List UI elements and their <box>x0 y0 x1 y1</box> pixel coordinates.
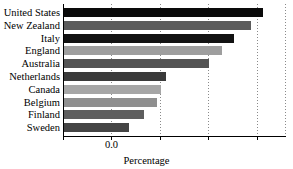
category-label: Belgium <box>0 98 60 108</box>
category-label: England <box>0 46 60 56</box>
plot-area <box>63 4 286 137</box>
bar <box>64 72 166 81</box>
category-label: Australia <box>0 59 60 69</box>
category-label: Sweden <box>0 123 60 133</box>
category-label: United States <box>0 8 60 18</box>
x-axis-zero-tick-label: 0.0 <box>81 139 141 150</box>
bar <box>64 34 234 43</box>
bar <box>64 8 263 17</box>
category-label: Italy <box>0 34 60 44</box>
bar-chart-figure: United StatesNew ZealandItalyEnglandAust… <box>0 0 293 169</box>
bar <box>64 85 161 94</box>
x-axis-tick <box>257 136 258 140</box>
bar <box>64 123 129 132</box>
gridline <box>257 4 258 136</box>
bar <box>64 59 209 68</box>
category-label: Canada <box>0 85 60 95</box>
bar <box>64 21 251 30</box>
category-axis-labels: United StatesNew ZealandItalyEnglandAust… <box>0 6 62 132</box>
bar <box>64 98 157 107</box>
x-axis-title: Percentage <box>0 155 293 166</box>
bar <box>64 46 222 55</box>
category-label: Netherlands <box>0 72 60 82</box>
x-axis-tick <box>160 136 161 140</box>
x-axis-tick <box>208 136 209 140</box>
x-axis-tick <box>63 136 64 140</box>
category-label: New Zealand <box>0 21 60 31</box>
category-label: Finland <box>0 110 60 120</box>
x-axis-line <box>63 136 286 137</box>
bar <box>64 110 144 119</box>
gridline-plot-edge <box>285 4 286 136</box>
